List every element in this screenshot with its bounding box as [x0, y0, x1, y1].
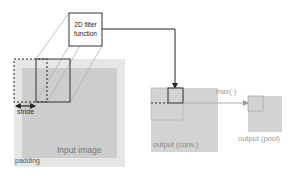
stride-label: stride: [17, 108, 34, 115]
output-pool-label: output (pool): [238, 134, 280, 143]
filter-label-line2: function: [69, 29, 102, 38]
output-conv-label: output (conv.): [153, 140, 198, 149]
output-pool-region: [248, 96, 282, 132]
input-image-label: Input image: [57, 145, 101, 155]
max-label: max(·): [216, 88, 236, 95]
cnn-diagram: [0, 0, 304, 184]
filter-label: 2D filter function: [69, 20, 102, 38]
filter-label-line1: 2D filter: [69, 20, 102, 29]
padding-label: padding: [15, 157, 40, 164]
